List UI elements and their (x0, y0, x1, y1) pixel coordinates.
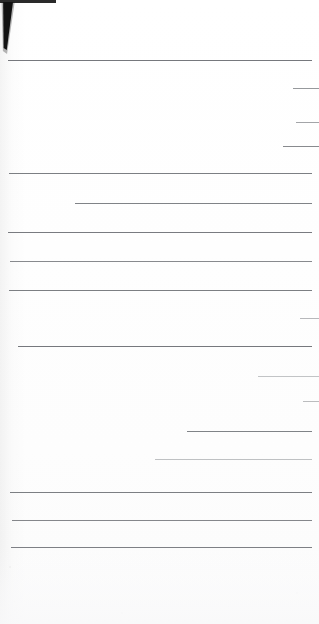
ruled-line (187, 431, 312, 432)
ruled-line (18, 346, 312, 347)
ruled-line (155, 459, 312, 460)
ruled-line (296, 122, 319, 123)
bottom-fade (0, 544, 319, 624)
ruled-line (75, 203, 312, 204)
ruled-line (300, 318, 319, 319)
ruled-line (9, 173, 312, 174)
ruled-line (8, 232, 312, 233)
ruled-line (258, 376, 319, 377)
ruled-line (293, 88, 319, 89)
scanned-page (0, 0, 319, 624)
ruled-line (303, 401, 319, 402)
ruled-line (8, 60, 312, 61)
paper-surface (0, 0, 319, 624)
ruled-line (10, 492, 312, 493)
ruled-line (10, 261, 312, 262)
binding-shadow (0, 0, 26, 624)
ruled-line (9, 290, 312, 291)
ruled-line (12, 520, 312, 521)
ruled-line (283, 146, 319, 147)
